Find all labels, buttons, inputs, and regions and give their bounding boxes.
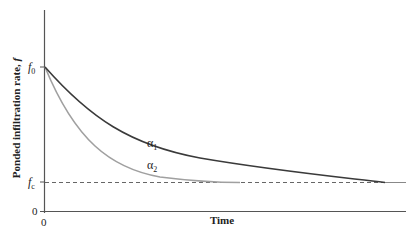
y-tick-label-fc: fc (28, 175, 35, 191)
curve-label-alpha1: α1 (147, 136, 157, 152)
y-tick-label-zero: 0 (32, 205, 38, 217)
x-axis-label: Time (210, 214, 234, 226)
chart: f0 fc 0 0 Time Ponded infiltration rate,… (0, 0, 417, 238)
y-axis-label: Ponded infiltration rate, f (10, 56, 22, 178)
x-tick-label-zero: 0 (41, 216, 47, 228)
curve-alpha1 (45, 67, 385, 183)
curve-label-alpha2: α2 (147, 158, 157, 174)
y-tick-label-f0: f0 (28, 60, 35, 76)
curve-alpha2 (45, 67, 240, 183)
